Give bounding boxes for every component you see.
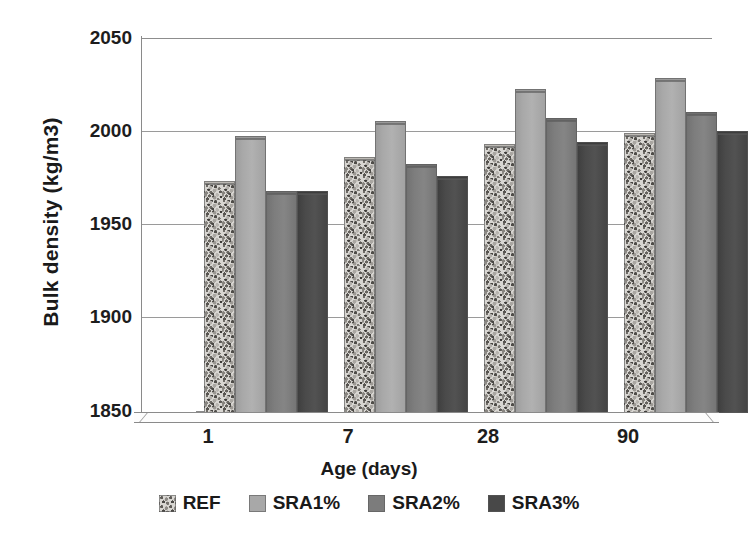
legend-swatch-icon [249,495,266,512]
bar-group-90 [624,38,748,413]
bar-top-cap [266,191,297,194]
x-tick-label-28: 28 [428,425,548,448]
y-tick-label-1900: 1900 [66,306,132,328]
bar-sra2-7[interactable] [406,167,437,413]
legend-item-ref[interactable]: REF [159,492,221,514]
bar-top-cap [577,142,608,145]
bar-top-cap [624,133,655,136]
bar-face [624,136,655,414]
bar-top-cap [484,144,515,147]
bar-ref-7[interactable] [344,160,375,413]
y-tick-label-2000: 2000 [66,120,132,142]
y-tick-label-1950: 1950 [66,213,132,235]
bar-ref-90[interactable] [624,136,655,414]
bar-group-1 [204,38,328,413]
bar-top-cap [235,136,266,139]
bar-sra3-28[interactable] [577,145,608,413]
bar-sra1-90[interactable] [655,81,686,413]
bar-face [577,145,608,413]
bar-face [484,147,515,413]
y-tick-label-1850: 1850 [66,400,132,422]
bar-face [655,81,686,413]
legend-swatch-icon [488,495,505,512]
bar-face [297,194,328,413]
bar-face [375,124,406,413]
bar-face [717,134,748,413]
bar-ref-28[interactable] [484,147,515,413]
chart-floor [134,412,719,423]
x-tick-label-7: 7 [288,425,408,448]
bar-face [686,115,717,413]
bar-top-cap [546,118,577,121]
bar-sra1-1[interactable] [235,139,266,413]
legend-swatch-icon [159,495,176,512]
bar-sra2-90[interactable] [686,115,717,413]
bar-sra1-7[interactable] [375,124,406,413]
bar-top-cap [437,176,468,179]
bar-sra2-28[interactable] [546,121,577,414]
bar-top-cap [375,121,406,124]
bar-top-cap [655,78,686,81]
bar-face [437,179,468,413]
chart-legend: REFSRA1%SRA2%SRA3% [0,492,738,514]
x-tick-label-90: 90 [568,425,688,448]
plot-area [142,38,712,413]
bar-sra2-1[interactable] [266,194,297,413]
bar-top-cap [204,181,235,184]
bar-sra3-1[interactable] [297,194,328,413]
bar-sra3-7[interactable] [437,179,468,413]
bar-face [546,121,577,414]
bar-face [406,167,437,413]
legend-item-sra3[interactable]: SRA3% [488,492,580,514]
bar-top-cap [717,131,748,134]
bar-face [266,194,297,413]
bar-ref-1[interactable] [204,184,235,413]
y-tick-label-2050: 2050 [66,27,132,49]
bar-group-28 [484,38,608,413]
bar-group-7 [344,38,468,413]
legend-label: SRA1% [273,492,341,514]
legend-label: SRA3% [512,492,580,514]
bar-sra1-28[interactable] [515,92,546,413]
x-tick-label-1: 1 [148,425,268,448]
legend-label: SRA2% [392,492,460,514]
bar-top-cap [406,164,437,167]
legend-item-sra1[interactable]: SRA1% [249,492,341,514]
bar-face [515,92,546,413]
bar-face [235,139,266,413]
legend-item-sra2[interactable]: SRA2% [368,492,460,514]
bar-top-cap [344,157,375,160]
bar-top-cap [297,191,328,194]
bar-face [204,184,235,413]
bar-sra3-90[interactable] [717,134,748,413]
bar-face [344,160,375,413]
x-axis-title: Age (days) [0,458,738,480]
bar-top-cap [515,89,546,92]
bar-top-cap [686,112,717,115]
legend-swatch-icon [368,495,385,512]
legend-label: REF [183,492,221,514]
